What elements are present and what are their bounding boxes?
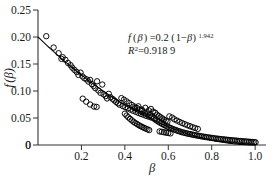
x-tick-label: 0.2 xyxy=(74,150,89,162)
origin-tick-label: 0 xyxy=(25,139,31,151)
chart-canvas: 00.050.100.150.200.25 00.20.40.60.81.0 β… xyxy=(0,0,275,179)
eq-one-minus: 1− xyxy=(176,32,187,43)
y-axis-title: f(β) xyxy=(2,68,16,88)
eq-paren-open-2: ( xyxy=(171,32,175,44)
eq-equals: =0.2 xyxy=(150,32,169,43)
eq-paren-open-1: ( xyxy=(133,32,137,44)
y-tick-label: 0.20 xyxy=(11,31,31,43)
y-tick-label: 0.05 xyxy=(11,112,31,124)
x-axis-title: β xyxy=(148,161,156,175)
y-title-paren-close: ) xyxy=(2,68,16,73)
eq-beta-1: β xyxy=(136,32,143,43)
x-tick-label: 0.4 xyxy=(118,150,133,162)
eq-paren-close-1: ) xyxy=(144,32,148,44)
chart-background xyxy=(0,0,275,179)
r-squared-annotation: R2=0.918 9 xyxy=(127,45,175,56)
eq-paren-close-2: ) xyxy=(193,32,197,44)
x-tick-label: 0.8 xyxy=(205,150,220,162)
x-tick-label: 1.0 xyxy=(248,150,263,162)
eq-exponent: 1.942 xyxy=(199,32,214,39)
r-value: =0.918 9 xyxy=(138,45,175,56)
y-axis-title-group: f(β) xyxy=(2,68,16,88)
y-tick-label: 0.25 xyxy=(11,4,31,16)
x-tick-label: 0.6 xyxy=(161,150,176,162)
scatter-plot-figure: 00.050.100.150.200.25 00.20.40.60.81.0 β… xyxy=(0,0,275,179)
